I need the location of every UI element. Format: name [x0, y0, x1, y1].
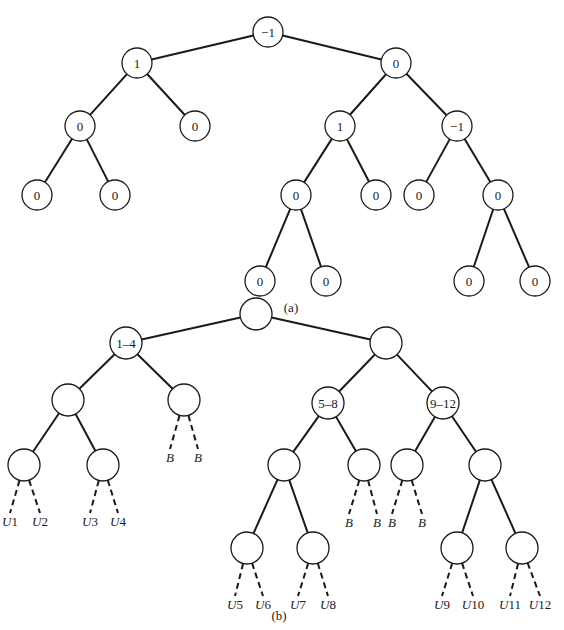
tree-edge [339, 355, 375, 392]
tree-node: 1 [325, 111, 355, 141]
dashed-edge [298, 563, 308, 596]
node-label: 0 [112, 188, 119, 203]
node-label: 1–4 [116, 336, 136, 351]
leaf-label: U6 [255, 597, 271, 612]
tree-node [348, 449, 380, 481]
tree-node: 0 [245, 266, 275, 296]
dashed-edge [510, 564, 518, 596]
tree-edge [504, 209, 529, 267]
leaf-label: B [166, 450, 174, 465]
dashed-edge [462, 563, 473, 596]
tree-node: 0 [22, 180, 52, 210]
tree-node: 0 [483, 180, 513, 210]
node-label: 0 [323, 274, 330, 289]
tree-edges [45, 35, 529, 267]
leaf-label: U4 [110, 514, 126, 529]
leaf-label: U11 [499, 597, 521, 612]
node-label: 5–8 [318, 396, 338, 411]
tree-edge [147, 74, 185, 115]
tree-node: 0 [381, 48, 411, 78]
tree-node [268, 449, 300, 481]
node-label: 0 [192, 119, 199, 134]
tree-edge [304, 139, 332, 183]
node-label: 0 [257, 274, 264, 289]
leaf-label: B [418, 515, 426, 530]
tree-node [231, 532, 263, 564]
tree-edge [137, 354, 172, 389]
tree-edge [254, 480, 278, 534]
node-circle [168, 384, 200, 416]
dashed-edge [90, 480, 99, 513]
node-label: 0 [532, 274, 539, 289]
tree-node: 0 [311, 266, 341, 296]
leaf-label: B [345, 515, 353, 530]
dashed-edge [528, 563, 540, 596]
tree-node: −1 [253, 17, 283, 47]
tree-edge [142, 317, 241, 339]
node-circle [297, 532, 329, 564]
tree-edge [465, 139, 491, 182]
node-circle [391, 449, 423, 481]
tree-nodes: −110001−10000000000 [22, 17, 550, 296]
node-label: 0 [34, 188, 41, 203]
tree-node [168, 384, 200, 416]
dashed-edge [29, 480, 40, 513]
tree-edge [301, 209, 321, 267]
node-circle [8, 449, 40, 481]
dashed-edge [349, 480, 359, 514]
leaf-label: B [373, 515, 381, 530]
tree-edge [289, 480, 307, 533]
tree-edge [462, 480, 480, 533]
node-label: 0 [393, 56, 400, 71]
node-label: 1 [134, 56, 141, 71]
node-circle [52, 384, 84, 416]
tree-node: 0 [404, 180, 434, 210]
tree-node [87, 449, 119, 481]
tree-edge [76, 414, 96, 451]
tree-edge [45, 139, 72, 183]
range-tree-panel-b: 1–45–89–12 U1U2U3U4BBBBBBU5U6U7U8U9U10U1… [2, 298, 551, 623]
node-label: 0 [77, 119, 84, 134]
node-circle [506, 532, 538, 564]
node-label: 0 [495, 188, 502, 203]
tree-edge [492, 480, 516, 534]
tree-node [240, 298, 272, 330]
node-label: 9–12 [430, 396, 456, 411]
dashed-edge [412, 480, 422, 514]
node-circle [348, 449, 380, 481]
tree-node [506, 532, 538, 564]
tree-node: 0 [520, 266, 550, 296]
dashed-edge [10, 480, 20, 513]
tree-node [391, 449, 423, 481]
tree-edge [283, 36, 382, 60]
tree-node: 9–12 [427, 387, 459, 419]
tree-diagram: −110001−10000000000 (a) 1–45–89–12 U1U2U… [0, 0, 564, 630]
leaf-label: U10 [462, 597, 484, 612]
leaf-label: U5 [227, 597, 243, 612]
node-circle [469, 449, 501, 481]
tree-node: 0 [454, 266, 484, 296]
tree-edge [33, 413, 59, 452]
dashed-edge [108, 480, 118, 513]
tree-node [297, 532, 329, 564]
panel-caption-a: (a) [284, 300, 298, 315]
tree-node [8, 449, 40, 481]
dashed-edge [170, 415, 180, 449]
node-label: 0 [293, 188, 300, 203]
dashed-edge [368, 480, 377, 514]
tree-node: 0 [100, 180, 130, 210]
node-label: 0 [373, 188, 380, 203]
tree-edge [336, 417, 356, 451]
leaf-label: B [194, 450, 202, 465]
leaf-label: U2 [32, 514, 48, 529]
leaf-label: U1 [2, 514, 18, 529]
tree-edge [266, 209, 290, 267]
dashed-edge [392, 480, 402, 514]
node-label: −1 [261, 25, 275, 40]
node-circle [441, 532, 473, 564]
avl-balance-tree-panel-a: −110001−10000000000 (a) [22, 17, 550, 315]
tree-node [441, 532, 473, 564]
dashed-edge [442, 563, 452, 596]
dashed-edge [188, 415, 198, 449]
tree-node [469, 449, 501, 481]
